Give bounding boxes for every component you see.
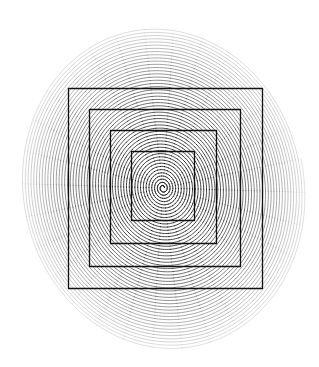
- spiral-squares-canvas: [0, 0, 319, 367]
- figure-root: Elliptical spiral with concentric square…: [0, 0, 319, 367]
